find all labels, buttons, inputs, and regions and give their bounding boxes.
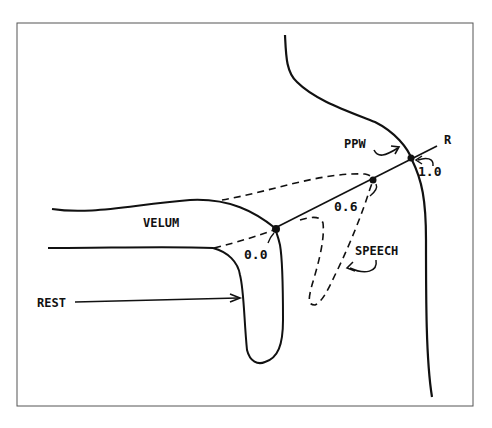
figure-frame [17,23,473,406]
posterior-pharyngeal-wall-contour [285,35,432,397]
label-tick-1-0: 1.0 [418,164,442,179]
label-ppw: PPW [344,137,366,151]
rest-arrow-line [75,298,238,302]
label-tick-0-6: 0.6 [334,199,358,214]
point-1-0 [408,155,415,162]
label-speech: SPEECH [355,244,398,258]
label-r: R [444,133,452,147]
diagram-canvas: PPW R VELUM REST SPEECH 0.0 0.6 1.0 [0,0,492,428]
label-rest: REST [37,296,66,310]
velum-speech-upper-contour [222,174,373,200]
tick-0-0-curved-arrow [268,233,274,243]
ppw-curved-arrow [374,148,398,155]
label-tick-0-0: 0.0 [244,247,268,262]
velopharyngeal-diagram: PPW R VELUM REST SPEECH 0.0 0.6 1.0 [0,0,492,428]
velum-speech-lower-contour [214,229,276,248]
label-velum: VELUM [143,216,179,230]
